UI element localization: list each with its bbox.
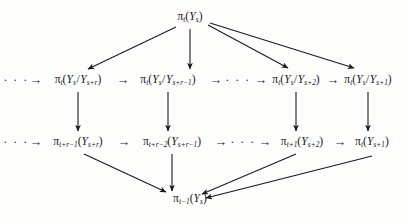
- edge-to-base: [84, 154, 166, 192]
- node-homotopy-s-plus-1: πt(Ys+1): [355, 136, 389, 148]
- edge-from-apex: [208, 25, 288, 68]
- node-homotopy-s-plus-r: πt+r−1(Ys+r): [53, 136, 103, 148]
- node-quotient-s-plus-r-minus-1: πt(Ys/Ys+r−1): [140, 74, 195, 86]
- horizontal-arrow-icon: →: [210, 73, 223, 88]
- horizontal-arrow-icon: →: [259, 135, 272, 150]
- horizontal-arrow-icon: →: [118, 135, 131, 150]
- edges-from-apex: [88, 23, 354, 69]
- node-base: πt−1(Ys): [173, 193, 207, 205]
- edges-verticals: [78, 92, 368, 131]
- horizontal-arrow-icon: →: [327, 73, 340, 88]
- node-homotopy-s-plus-2: πt+1(Ys+2): [281, 136, 324, 148]
- horizontal-arrow-icon: →: [255, 73, 268, 88]
- node-homotopy-s-plus-r-minus-1: πt+r−2(Ys+r−1): [143, 136, 201, 148]
- node-apex: πt(Ys): [177, 11, 202, 23]
- ellipsis: · · ·: [3, 74, 28, 86]
- edge-from-apex: [88, 27, 176, 69]
- ellipsis: · · ·: [230, 136, 255, 148]
- edge-from-apex: [210, 23, 354, 68]
- ellipsis: · · ·: [225, 74, 250, 86]
- node-quotient-s-plus-2: πt(Ys/Ys+2): [272, 74, 320, 86]
- arrow-layer: [0, 0, 408, 224]
- horizontal-arrow-icon: →: [30, 73, 43, 88]
- edges-to-base: [84, 154, 372, 198]
- diagram-canvas: πt(Ys) πt(Ys/Ys+r) πt(Ys/Ys+r−1) πt(Ys/Y…: [0, 0, 408, 224]
- horizontal-arrow-icon: →: [215, 135, 228, 150]
- horizontal-arrow-icon: →: [30, 135, 43, 150]
- horizontal-arrow-icon: →: [334, 135, 347, 150]
- node-quotient-s-plus-1: πt(Ys/Ys+1): [344, 74, 392, 86]
- ellipsis: · · ·: [3, 136, 28, 148]
- edge-to-base: [202, 154, 296, 194]
- horizontal-arrow-icon: →: [117, 73, 130, 88]
- edge-to-base: [206, 156, 372, 198]
- node-quotient-s-plus-r: πt(Ys/Ys+r): [55, 74, 102, 86]
